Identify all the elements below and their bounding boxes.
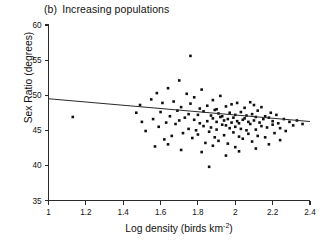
data-point xyxy=(212,117,215,120)
data-point xyxy=(240,128,243,131)
data-point xyxy=(264,136,267,139)
data-point xyxy=(178,79,181,82)
data-point xyxy=(150,98,153,101)
figure-panel: (b)Increasing populations 354045505560 1… xyxy=(0,0,330,242)
data-point xyxy=(195,129,198,132)
data-point xyxy=(260,125,263,128)
y-tick-label: 35 xyxy=(32,197,42,206)
data-point xyxy=(198,107,201,110)
data-point xyxy=(232,116,235,119)
data-point xyxy=(269,111,272,114)
data-point xyxy=(288,121,291,124)
data-point xyxy=(169,115,172,118)
data-point xyxy=(213,136,216,139)
data-point xyxy=(180,106,183,109)
data-point xyxy=(301,123,304,126)
data-point xyxy=(180,149,183,152)
data-point xyxy=(251,113,254,116)
data-point xyxy=(266,126,269,129)
x-tick-label: 2 xyxy=(233,208,238,217)
x-tick-label: 2.4 xyxy=(304,208,316,217)
data-point xyxy=(189,55,192,58)
y-axis-label: Sex Ratio (degrees) xyxy=(23,3,34,153)
data-point xyxy=(223,119,226,122)
data-point xyxy=(210,114,213,117)
data-point xyxy=(198,122,201,125)
y-tick-label: 60 xyxy=(32,21,42,30)
data-point xyxy=(256,109,259,112)
data-point xyxy=(204,142,207,145)
data-point xyxy=(167,87,170,90)
data-point xyxy=(258,121,261,124)
regression-line xyxy=(49,99,311,122)
data-point xyxy=(191,137,194,140)
data-point xyxy=(215,108,218,111)
data-point xyxy=(184,116,187,119)
data-point xyxy=(161,102,164,105)
data-point xyxy=(230,103,233,106)
data-point xyxy=(253,119,256,122)
data-point xyxy=(152,118,155,121)
data-point xyxy=(212,144,215,147)
data-point xyxy=(225,105,228,108)
data-point xyxy=(223,134,226,137)
data-point xyxy=(243,107,246,110)
x-tick-label: 1.2 xyxy=(80,208,92,217)
data-point xyxy=(271,123,274,126)
data-point xyxy=(260,106,263,109)
data-point xyxy=(255,147,258,150)
data-point xyxy=(167,143,170,146)
data-point xyxy=(157,125,160,128)
data-point xyxy=(238,135,241,138)
data-point xyxy=(225,154,228,157)
data-point xyxy=(135,111,138,114)
data-point xyxy=(221,123,224,126)
data-point xyxy=(141,121,144,124)
x-axis-label-main: Log density (birds km xyxy=(125,223,223,234)
data-point xyxy=(238,150,241,153)
y-axis-ticks: 354045505560 xyxy=(32,21,48,206)
x-axis-ticks: 11.21.41.61.822.22.4 xyxy=(46,201,316,217)
y-tick-label: 45 xyxy=(32,126,42,135)
data-point xyxy=(174,123,177,126)
data-point xyxy=(215,121,218,124)
x-axis-label: Log density (birds km-2) xyxy=(48,222,310,234)
data-point xyxy=(251,140,254,143)
data-point xyxy=(245,129,248,132)
x-tick-label: 2.2 xyxy=(267,208,279,217)
data-point xyxy=(249,101,252,104)
data-point xyxy=(279,139,282,142)
data-point xyxy=(240,111,243,114)
data-point xyxy=(232,131,235,134)
data-point xyxy=(197,133,200,136)
data-point xyxy=(187,128,190,131)
data-point xyxy=(189,102,192,105)
data-point xyxy=(139,104,142,107)
data-point xyxy=(193,96,196,99)
data-point xyxy=(156,92,159,95)
data-point xyxy=(206,104,209,107)
data-point xyxy=(208,130,211,133)
data-point xyxy=(215,128,218,131)
data-point xyxy=(277,122,280,125)
data-point xyxy=(212,99,215,102)
data-point xyxy=(238,122,241,125)
data-point xyxy=(71,116,74,119)
data-point xyxy=(187,113,190,116)
data-point xyxy=(225,124,228,127)
data-point xyxy=(202,125,205,128)
data-point xyxy=(228,127,231,130)
x-tick-label: 1.8 xyxy=(192,208,204,217)
data-point xyxy=(230,121,233,124)
data-point xyxy=(247,133,250,136)
data-point xyxy=(284,130,287,133)
data-point xyxy=(256,135,259,138)
data-point xyxy=(243,117,246,120)
data-point xyxy=(221,115,224,118)
data-point xyxy=(275,114,278,117)
data-point xyxy=(206,120,209,123)
data-point xyxy=(200,151,203,154)
data-point xyxy=(255,128,258,131)
data-point xyxy=(210,126,213,129)
data-point xyxy=(197,114,200,117)
